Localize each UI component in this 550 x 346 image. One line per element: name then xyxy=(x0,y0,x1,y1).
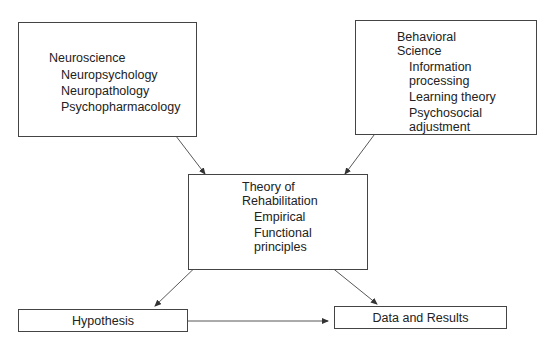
theory-title: Theory of xyxy=(242,180,295,194)
neuroscience-box: Neuroscience Neuropsychology Neuropathol… xyxy=(18,22,197,137)
behavioral-item: Learning theory xyxy=(397,90,496,104)
behavioral-title: Science xyxy=(397,44,441,58)
neuroscience-title: Neuroscience xyxy=(49,51,125,65)
behavioral-item: Psychosocial xyxy=(397,106,482,120)
theory-item: Empirical xyxy=(242,210,305,224)
behavioral-item: adjustment xyxy=(397,120,470,134)
hypothesis-label: Hypothesis xyxy=(72,314,134,328)
behavioral-item: processing xyxy=(397,74,469,88)
behavioral-title: Behavioral xyxy=(397,30,456,44)
neuroscience-item: Psychopharmacology xyxy=(49,100,181,114)
theory-of-rehabilitation-box: Theory of Rehabilitation Empirical Funct… xyxy=(188,174,368,270)
behavioral-item: Information xyxy=(397,60,472,74)
neuroscience-item: Neuropsychology xyxy=(49,68,158,82)
theory-title: Rehabilitation xyxy=(242,194,318,208)
theory-item: principles xyxy=(242,240,307,254)
theory-item: Functional xyxy=(242,226,312,240)
data-and-results-box: Data and Results xyxy=(334,306,507,329)
data-results-label: Data and Results xyxy=(373,311,469,325)
hypothesis-box: Hypothesis xyxy=(18,309,188,332)
neuroscience-item: Neuropathology xyxy=(49,84,149,98)
behavioral-science-box: Behavioral Science Information processin… xyxy=(355,20,537,135)
